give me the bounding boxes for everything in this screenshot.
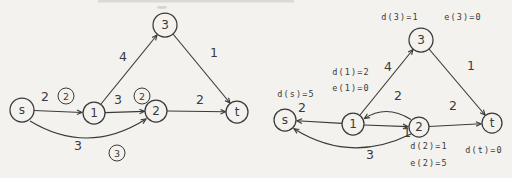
left-edge-s-1 [34, 111, 82, 113]
left-weight-1-3: 4 [119, 49, 127, 64]
right-node-3-label: 3 [417, 33, 425, 47]
left-weight-s-2: 3 [74, 138, 82, 153]
annotation-e1: e(1)=0 [332, 83, 369, 93]
flow-network-diagram: s 1 2 3 t 2 4 1 3 2 3 2 2 3 [0, 0, 512, 178]
left-node-3-label: 3 [161, 18, 169, 32]
annotation-dt: d(t)=0 [465, 145, 502, 155]
right-graph: s 1 2 3 t 2 4 1 1 2 2 3 d(3)=1 e(3)=0 d(… [274, 12, 503, 168]
left-graph: s 1 2 3 t 2 4 1 3 2 3 2 2 3 [10, 13, 248, 161]
annotation-ds: d(s)=5 [277, 89, 314, 99]
left-weight-s-1: 2 [41, 89, 49, 104]
right-node-s-label: s [282, 113, 288, 127]
left-circled-value-s2: 3 [109, 145, 125, 161]
annotation-e3: e(3)=0 [444, 12, 481, 22]
annotation-d3: d(3)=1 [381, 12, 418, 22]
right-edge-2-1-curve [365, 111, 412, 119]
left-edge-1-3 [101, 35, 157, 104]
right-weight-2-1: 2 [394, 88, 402, 103]
right-weight-3-t: 1 [467, 58, 475, 73]
right-node-2-label: 2 [415, 120, 423, 134]
scanned-figure-page: s 1 2 3 t 2 4 1 3 2 3 2 2 3 [0, 0, 512, 178]
left-circled-s2-label: 3 [114, 148, 120, 159]
left-edge-1-2 [105, 111, 145, 112]
right-weight-1-3: 4 [384, 59, 392, 74]
right-edge-1-2 [364, 125, 408, 127]
left-node-2-label: 2 [152, 104, 160, 118]
left-weight-3-t: 1 [210, 45, 218, 60]
right-weight-2-t: 2 [449, 98, 457, 113]
right-node-1-label: 1 [349, 117, 357, 131]
annotation-d2: d(2)=1 [410, 141, 447, 151]
right-node-t-label: t [490, 116, 495, 130]
right-edge-3-t [429, 49, 485, 115]
left-circled-12-label: 2 [139, 91, 145, 102]
left-circled-s1-label: 2 [63, 91, 69, 102]
right-weight-1-s: 2 [298, 100, 306, 115]
left-weight-1-2: 3 [114, 92, 122, 107]
left-circled-value-s1: 2 [58, 88, 74, 104]
right-edge-2-t [429, 124, 481, 127]
left-node-1-label: 1 [90, 106, 98, 120]
right-weight-2-s: 3 [366, 147, 374, 162]
scan-artifact [157, 6, 167, 9]
left-node-t-label: t [235, 105, 240, 119]
left-weight-2-t: 2 [196, 92, 204, 107]
right-weight-1-2: 1 [403, 125, 411, 140]
annotation-d1: d(1)=2 [332, 67, 369, 77]
scan-artifact [98, 0, 294, 3]
annotation-e2: e(2)=5 [410, 158, 447, 168]
left-circled-value-12: 2 [134, 88, 150, 104]
left-node-s-label: s [19, 103, 25, 117]
left-edge-2-t [167, 111, 226, 112]
right-edge-1-s [297, 121, 342, 124]
